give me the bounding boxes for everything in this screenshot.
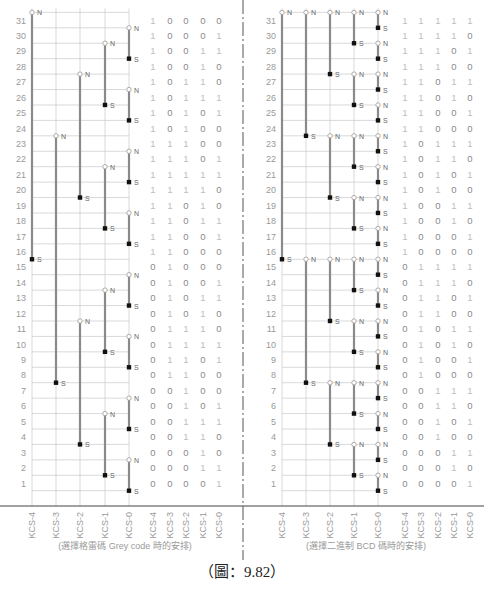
code-bit: 1 [200,323,205,334]
code-bit: 1 [183,107,188,118]
position-label: 30 [266,31,276,41]
south-label: S [383,25,388,32]
north-label: N [335,133,340,140]
north-label: N [134,148,139,155]
north-label: N [359,133,364,140]
position-label: 24 [266,124,276,134]
south-pole-marker [127,180,131,184]
south-pole-marker [376,26,380,30]
south-label: S [383,426,388,433]
south-pole-marker [376,211,380,215]
north-label: N [110,164,115,171]
south-pole-marker [103,226,107,230]
code-bit: 0 [402,277,407,288]
code-bit: 0 [467,400,472,411]
south-label: S [359,411,364,418]
code-bit: 1 [216,30,221,41]
code-bit: 1 [183,92,188,103]
code-bit: 0 [200,277,205,288]
code-bit: 1 [150,184,155,195]
north-pole-marker [376,103,380,107]
position-label: 29 [266,46,276,56]
code-bit: 1 [418,107,423,118]
code-bit: 1 [167,169,172,180]
south-label: S [383,333,388,340]
code-bit: 0 [200,246,205,257]
position-label: 27 [266,77,276,87]
south-label: S [383,241,388,248]
south-pole-marker [127,427,131,431]
north-pole-marker [376,473,380,477]
column-label: KCS-0 [373,512,383,539]
south-label: S [359,225,364,232]
position-label: 10 [266,340,276,350]
south-label: S [383,272,388,279]
code-bit: 1 [167,323,172,334]
code-bit: 1 [216,462,221,473]
south-pole-marker [352,41,356,45]
code-bit: 1 [402,138,407,149]
code-bit: 1 [418,339,423,350]
code-bit: 0 [467,277,472,288]
position-label: 24 [16,124,26,134]
code-bit: 0 [150,308,155,319]
code-bit: 1 [435,277,440,288]
south-label: S [134,241,139,248]
north-label: N [383,195,388,202]
position-label: 3 [21,448,26,458]
south-pole-marker [352,350,356,354]
code-bit: 0 [183,30,188,41]
south-pole-marker [304,134,308,138]
north-label: N [134,210,139,217]
north-label: N [359,441,364,448]
position-label: 26 [266,93,276,103]
code-bit: 0 [183,292,188,303]
code-bit: 0 [467,92,472,103]
column-label: KCS-0 [214,512,224,539]
code-bit: 1 [216,231,221,242]
code-bit: 0 [216,138,221,149]
code-bit: 1 [451,462,456,473]
position-label: 15 [16,262,26,272]
code-bit: 1 [402,76,407,87]
south-label: S [359,349,364,356]
code-bit: 1 [150,200,155,211]
position-label: 25 [16,108,26,118]
south-pole-marker [127,242,131,246]
south-pole-marker [352,164,356,168]
code-bit: 1 [451,261,456,272]
south-label: S [134,364,139,371]
code-bit: 0 [200,123,205,134]
position-label: 12 [16,309,26,319]
code-bit: 0 [418,400,423,411]
code-bit: 0 [467,61,472,72]
north-label: N [311,9,316,16]
code-bit: 1 [216,478,221,489]
south-pole-marker [376,87,380,91]
north-label: N [134,395,139,402]
code-bit: 1 [435,184,440,195]
north-pole-marker [352,442,356,446]
south-label: S [383,303,388,310]
column-label: KCS-1 [449,512,459,539]
north-pole-marker [352,319,356,323]
code-bit: 1 [183,123,188,134]
south-label: S [383,395,388,402]
code-bit: 0 [402,478,407,489]
code-bit: 0 [467,123,472,134]
column-label: KCS-2 [181,512,191,539]
south-pole-marker [376,427,380,431]
code-bit: 0 [451,169,456,180]
position-label: 25 [266,108,276,118]
south-label: S [383,56,388,63]
code-bit: 0 [150,385,155,396]
code-bit: 0 [183,308,188,319]
north-pole-marker [376,350,380,354]
south-label: S [383,148,388,155]
south-label: S [134,488,139,495]
code-bit: 0 [183,231,188,242]
south-label: S [359,472,364,479]
code-bit: 0 [216,369,221,380]
position-label: 21 [16,170,26,180]
code-bit: 0 [183,261,188,272]
